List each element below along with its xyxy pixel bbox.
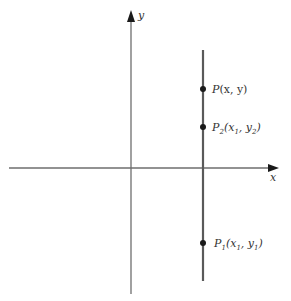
point-p1-label: P1(x1, y1) <box>213 237 263 252</box>
y-axis-label: y <box>137 9 145 22</box>
point-p2-close-paren: ) <box>256 121 261 134</box>
point-p2-coord-y: , y <box>239 121 253 134</box>
point-p1 <box>200 240 206 246</box>
coordinate-diagram: x y P(x, y) P2(x1, y2) P1(x1, y1) <box>0 0 291 301</box>
y-axis-arrow-icon <box>127 10 135 22</box>
point-p2-label: P2(x1, y2) <box>211 121 261 136</box>
point-p-coords: (x, y) <box>219 83 247 96</box>
point-p <box>200 86 206 92</box>
x-axis-label: x <box>270 171 277 184</box>
point-p-label: P(x, y) <box>211 83 247 96</box>
point-p1-coord-y: , y <box>241 237 255 250</box>
point-p1-close-paren: ) <box>258 237 263 250</box>
point-p2 <box>200 124 206 130</box>
